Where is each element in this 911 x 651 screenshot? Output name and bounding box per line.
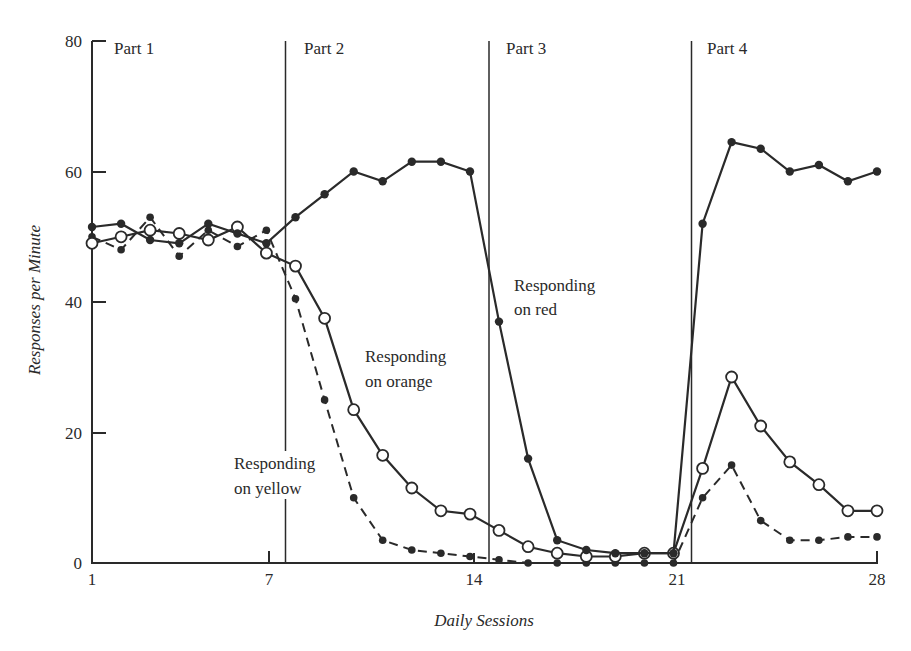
filled-circle-marker xyxy=(350,167,358,175)
y-tick-label: 0 xyxy=(74,554,83,573)
y-tick-label: 20 xyxy=(65,424,82,443)
y-tick-label: 40 xyxy=(65,293,82,312)
filled-circle-marker xyxy=(873,533,881,541)
filled-circle-marker xyxy=(815,161,823,169)
filled-circle-marker xyxy=(553,559,561,567)
filled-circle-marker xyxy=(379,177,387,185)
filled-circle-marker xyxy=(495,317,503,325)
filled-circle-marker xyxy=(524,454,532,462)
x-tick-label: 14 xyxy=(466,570,484,589)
part-4-label: Part 4 xyxy=(707,39,748,58)
open-circle-marker xyxy=(494,525,505,536)
x-tick-label: 21 xyxy=(669,570,686,589)
open-circle-marker xyxy=(203,235,214,246)
series-responding-on-yellow xyxy=(88,213,881,566)
filled-circle-marker xyxy=(582,546,590,554)
filled-circle-marker xyxy=(88,223,96,231)
filled-circle-marker xyxy=(757,517,765,525)
y-tick-label: 80 xyxy=(65,32,82,51)
open-circle-marker xyxy=(552,548,563,559)
filled-circle-marker xyxy=(844,533,852,541)
filled-circle-marker xyxy=(641,559,649,567)
open-circle-marker xyxy=(842,505,853,516)
annotation-red-line1: Responding xyxy=(514,276,596,295)
filled-circle-marker xyxy=(263,226,271,234)
x-tick-label: 1 xyxy=(88,570,97,589)
part-2-label: Part 2 xyxy=(304,39,344,58)
filled-circle-marker xyxy=(175,252,183,260)
x-tick-labels: 1 7 14 21 28 xyxy=(88,570,886,589)
part-1-label: Part 1 xyxy=(114,39,154,58)
series-responding-on-red xyxy=(88,138,881,558)
annotation-red-line2: on red xyxy=(514,300,557,319)
open-circle-marker xyxy=(523,541,534,552)
open-circle-marker xyxy=(377,450,388,461)
y-axis-title: Responses per Minute xyxy=(25,224,44,376)
open-circle-marker xyxy=(755,421,766,432)
filled-circle-marker xyxy=(146,213,154,221)
open-circle-marker xyxy=(784,456,795,467)
filled-circle-marker xyxy=(640,549,648,557)
part-3-label: Part 3 xyxy=(506,39,546,58)
filled-circle-marker xyxy=(611,549,619,557)
open-circle-marker xyxy=(406,483,417,494)
annotation-yellow-line1: Responding xyxy=(234,454,316,473)
filled-circle-marker xyxy=(379,536,387,544)
filled-circle-marker xyxy=(262,239,270,247)
annotation-orange: Responding on orange xyxy=(362,345,466,391)
filled-circle-marker xyxy=(786,536,794,544)
y-tick-labels: 80 60 40 20 0 xyxy=(65,32,82,573)
open-circle-marker xyxy=(290,261,301,272)
filled-circle-marker xyxy=(844,177,852,185)
filled-circle-marker xyxy=(524,559,532,567)
x-axis-title: Daily Sessions xyxy=(433,611,534,630)
filled-circle-marker xyxy=(437,158,445,166)
phase-dividers xyxy=(286,41,692,563)
filled-circle-marker xyxy=(699,494,707,502)
series-responding-on-orange xyxy=(87,222,883,563)
filled-circle-marker xyxy=(669,549,677,557)
series-line xyxy=(92,142,877,553)
open-circle-marker xyxy=(261,248,272,259)
annotation-orange-line1: Responding xyxy=(365,347,447,366)
x-tick-label: 28 xyxy=(869,570,886,589)
filled-circle-marker xyxy=(350,494,358,502)
filled-circle-marker xyxy=(553,536,561,544)
filled-circle-marker xyxy=(320,190,328,198)
filled-circle-marker xyxy=(175,239,183,247)
annotation-yellow: Responding on yellow xyxy=(232,451,332,499)
filled-circle-marker xyxy=(234,243,242,251)
open-circle-marker xyxy=(872,505,883,516)
filled-circle-marker xyxy=(291,213,299,221)
filled-circle-marker xyxy=(233,229,241,237)
filled-circle-marker xyxy=(757,145,765,153)
open-circle-marker xyxy=(319,313,330,324)
filled-circle-marker xyxy=(146,236,154,244)
filled-circle-marker xyxy=(292,295,300,303)
annotation-yellow-line2: on yellow xyxy=(234,479,302,498)
filled-circle-marker xyxy=(698,220,706,228)
filled-circle-marker xyxy=(495,556,503,564)
open-circle-marker xyxy=(116,231,127,242)
filled-circle-marker xyxy=(873,167,881,175)
open-circle-marker xyxy=(435,505,446,516)
filled-circle-marker xyxy=(727,138,735,146)
filled-circle-marker xyxy=(117,246,125,254)
open-circle-marker xyxy=(174,228,185,239)
open-circle-marker xyxy=(465,509,476,520)
filled-circle-marker xyxy=(728,461,736,469)
open-circle-marker xyxy=(145,225,156,236)
annotation-red: Responding on red xyxy=(514,276,596,319)
filled-circle-marker xyxy=(466,167,474,175)
filled-circle-marker xyxy=(437,549,445,557)
open-circle-marker xyxy=(813,479,824,490)
open-circle-marker xyxy=(697,463,708,474)
filled-circle-marker xyxy=(408,546,416,554)
filled-circle-marker xyxy=(321,396,329,404)
x-tick-label: 7 xyxy=(265,570,274,589)
y-tick-label: 60 xyxy=(65,163,82,182)
series-line xyxy=(92,227,877,557)
annotation-orange-line2: on orange xyxy=(365,372,433,391)
filled-circle-marker xyxy=(786,167,794,175)
series-line xyxy=(92,217,877,563)
